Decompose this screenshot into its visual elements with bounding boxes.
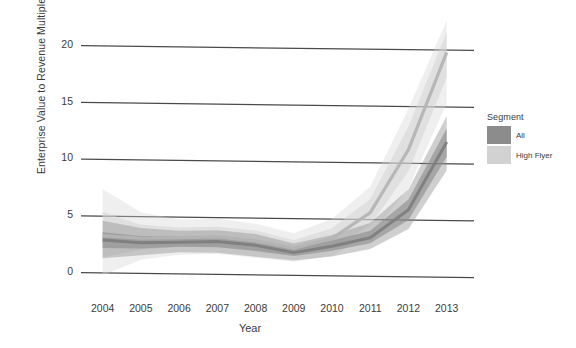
chart-root: Enterprise Value to Revenue Multiple Yea… [0,0,576,348]
x-tick-label-2013: 2013 [425,302,469,314]
gridline-0 [81,273,474,278]
legend-swatch-all [487,126,511,144]
legend-label-high-flyer: High Flyer [516,151,552,160]
legend-label-all: All [516,131,525,140]
y-tick-label-10: 10 [47,151,73,163]
y-tick-label-20: 20 [47,38,73,50]
chart-plot-area [0,0,576,348]
y-tick-label-5: 5 [47,208,73,220]
y-tick-label-15: 15 [47,95,73,107]
legend-item-all[interactable]: All [487,126,573,144]
legend-swatch-high-flyer [487,146,511,164]
y-tick-label-0: 0 [47,265,73,277]
legend-item-high-flyer[interactable]: High Flyer [487,146,573,164]
legend: Segment All High Flyer [487,112,573,166]
x-axis-title: Year [0,322,500,334]
gridline-20 [81,46,474,51]
legend-title: Segment [487,112,573,122]
